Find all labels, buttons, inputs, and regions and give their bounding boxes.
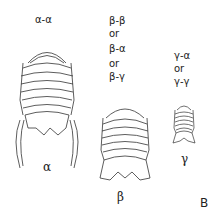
alpha-isopod bbox=[16, 53, 78, 169]
gamma-morph-label: γ bbox=[181, 152, 188, 166]
gamma-pairing-0: γ-α bbox=[174, 50, 190, 62]
panel-label: B bbox=[200, 196, 208, 210]
alpha-morph-label: α bbox=[43, 160, 51, 174]
alpha-pairing-0: α-α bbox=[35, 14, 52, 26]
beta-pairing-2: β-α bbox=[109, 43, 126, 55]
beta-pairing-3: or bbox=[109, 58, 119, 70]
beta-pairing-1: or bbox=[109, 28, 119, 40]
beta-pairing-4: β-γ bbox=[109, 71, 125, 83]
beta-morph-label: β bbox=[117, 190, 124, 204]
gamma-isopod bbox=[173, 106, 195, 143]
beta-isopod bbox=[100, 109, 150, 180]
gamma-pairing-1: or bbox=[174, 63, 184, 75]
gamma-pairing-2: γ-γ bbox=[174, 76, 189, 88]
beta-pairing-0: β-β bbox=[109, 15, 125, 27]
